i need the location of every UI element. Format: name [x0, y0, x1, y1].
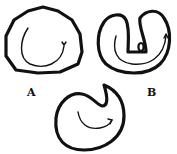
diagram-figure: A B	[0, 0, 177, 154]
label-b: B	[147, 86, 156, 99]
shape-c	[56, 85, 124, 150]
shape-b	[98, 11, 169, 73]
label-a: A	[27, 86, 36, 99]
shape-a	[6, 7, 82, 73]
diagram-canvas	[0, 0, 177, 154]
